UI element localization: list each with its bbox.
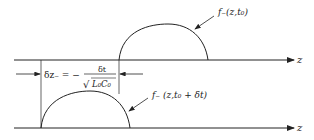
bottom-z-axis-label: z — [296, 122, 303, 133]
bottom-waveform — [41, 91, 130, 128]
top-z-axis-label: z — [296, 54, 303, 65]
displacement-denominator: L₀C₀ — [91, 79, 112, 89]
displacement-lhs: δz₋ = − — [44, 70, 80, 80]
top-waveform-label: f₋(z,t₀) — [217, 7, 248, 17]
displacement-numerator: δt — [98, 65, 107, 74]
sqrt-symbol: √ — [83, 79, 90, 90]
traveling-wave-diagram: z f₋(z,t₀) δz₋ = − δt √ L₀C₀ z f₋ (z,t₀ … — [0, 0, 314, 140]
top-label-pointer — [195, 16, 214, 29]
bottom-waveform-label: f₋ (z,t₀ + δt) — [151, 90, 208, 100]
top-waveform — [119, 24, 208, 60]
bottom-label-pointer — [129, 98, 148, 111]
